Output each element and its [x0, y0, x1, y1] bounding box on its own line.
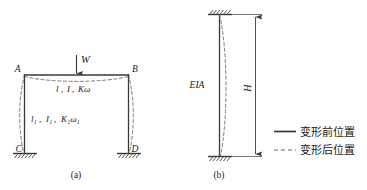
- panel-a: W A B C D l , I , Kω l₁ , I₁ , K₁ω₁: [13, 54, 141, 181]
- member-property-label-EIA: EIA: [189, 80, 205, 90]
- support-fixed-top: [208, 10, 232, 15]
- legend-item-after: 变形后位置: [274, 143, 355, 157]
- column-comma-1: ,: [39, 114, 41, 124]
- column-comma-2: ,: [54, 114, 56, 124]
- column-inertia-symbol: I₁: [45, 114, 52, 124]
- deformed-beam: [25, 77, 129, 82]
- deformed-left-column: [20, 75, 25, 152]
- height-dimension: H: [232, 15, 262, 157]
- column-length-symbol: l₁: [31, 114, 37, 124]
- legend-item-before: 变形前位置: [274, 125, 355, 139]
- beam-comma-2: ,: [72, 84, 74, 94]
- panel-a-caption: (a): [71, 170, 82, 181]
- beam-comma-1: ,: [61, 84, 63, 94]
- panel-b: EIA H (b): [189, 10, 262, 181]
- load-label-W: W: [81, 54, 91, 65]
- beam-inertia-symbol: I: [66, 84, 71, 94]
- figure-canvas: W A B C D l , I , Kω l₁ , I₁ , K₁ω₁: [0, 0, 367, 190]
- support-fixed-bottom: [208, 157, 232, 162]
- legend-label-before: 变形前位置: [300, 125, 355, 139]
- legend: 变形前位置 变形后位置: [274, 125, 355, 158]
- beam-stiffness-symbol: Kω: [77, 84, 90, 94]
- column-stiffness-symbol: K₁ω₁: [60, 114, 80, 124]
- node-label-B: B: [132, 64, 138, 74]
- deformed-right-column: [129, 75, 134, 152]
- support-fixed-C: [13, 154, 37, 159]
- panel-b-caption: (b): [213, 170, 224, 181]
- figure-root: W A B C D l , I , Kω l₁ , I₁ , K₁ω₁: [0, 0, 367, 190]
- beam-property-label: l , I , Kω: [56, 84, 90, 94]
- column-deformed-shape: [220, 15, 227, 156]
- support-fixed-D: [117, 154, 141, 159]
- column-property-label: l₁ , I₁ , K₁ω₁: [31, 114, 80, 124]
- node-label-A: A: [14, 64, 21, 74]
- node-label-C: C: [16, 144, 23, 154]
- node-label-D: D: [131, 144, 139, 154]
- legend-label-after: 变形后位置: [300, 143, 355, 157]
- beam-length-symbol: l: [56, 84, 59, 94]
- height-label-H: H: [242, 84, 253, 93]
